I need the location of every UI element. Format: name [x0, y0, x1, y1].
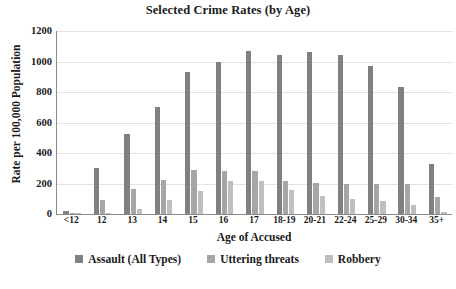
- bar: [429, 164, 434, 214]
- bar: [307, 52, 312, 214]
- x-tick-label: 12: [86, 215, 116, 225]
- y-tick-label: 800: [6, 87, 52, 97]
- chart-title: Selected Crime Rates (by Age): [0, 3, 456, 18]
- bar: [155, 107, 160, 215]
- legend-item[interactable]: Robbery: [325, 253, 381, 265]
- bar-groups: [57, 31, 453, 214]
- bar-group: [87, 31, 117, 214]
- x-tick-label: 22-24: [330, 215, 360, 225]
- bar: [380, 201, 385, 214]
- bar: [246, 51, 251, 214]
- bar: [124, 134, 129, 214]
- x-tick-label: <12: [56, 215, 86, 225]
- bar: [398, 87, 403, 214]
- bar-group: [301, 31, 331, 214]
- x-tick-label: 14: [147, 215, 177, 225]
- bar: [185, 72, 190, 214]
- x-tick-label: 15: [178, 215, 208, 225]
- y-tick-label: 1000: [6, 57, 52, 67]
- legend-label: Assault (All Types): [88, 253, 181, 265]
- bar: [374, 184, 379, 214]
- bar: [216, 62, 221, 215]
- bar-group: [179, 31, 209, 214]
- x-tick-label: 25-29: [361, 215, 391, 225]
- bar: [277, 55, 282, 214]
- bar: [161, 180, 166, 214]
- legend-label: Uttering threats: [220, 253, 299, 265]
- bar: [405, 184, 410, 215]
- bar: [228, 181, 233, 214]
- bar: [100, 200, 105, 214]
- bar: [222, 171, 227, 214]
- x-tick-label: 16: [208, 215, 238, 225]
- x-tick-label: 17: [239, 215, 269, 225]
- bar: [94, 168, 99, 214]
- legend-swatch-icon: [207, 255, 215, 263]
- legend-swatch-icon: [325, 255, 333, 263]
- bar: [167, 200, 172, 214]
- bar: [131, 189, 136, 214]
- bar-group: [392, 31, 422, 214]
- bar: [289, 190, 294, 214]
- bar: [368, 66, 373, 214]
- bar: [344, 184, 349, 214]
- bar: [252, 171, 257, 214]
- y-tick-label: 0: [6, 209, 52, 219]
- x-tick-label: 30-34: [391, 215, 421, 225]
- bar-group: [57, 31, 87, 214]
- x-tick-label: 18-19: [269, 215, 299, 225]
- bar-group: [148, 31, 178, 214]
- y-tick-label: 400: [6, 148, 52, 158]
- bar-group: [270, 31, 300, 214]
- bar: [198, 191, 203, 214]
- bar-group: [209, 31, 239, 214]
- y-tick-label: 200: [6, 179, 52, 189]
- bar: [313, 183, 318, 214]
- chart-legend: Assault (All Types)Uttering threatsRobbe…: [0, 253, 456, 265]
- bar: [350, 199, 355, 214]
- legend-item[interactable]: Assault (All Types): [75, 253, 181, 265]
- bar: [320, 196, 325, 214]
- bar-group: [331, 31, 361, 214]
- bar: [259, 181, 264, 214]
- y-tick-label: 1200: [6, 26, 52, 36]
- x-axis-title: Age of Accused: [56, 231, 452, 243]
- legend-swatch-icon: [75, 255, 83, 263]
- y-axis-tick-labels: 020040060080010001200: [0, 0, 52, 289]
- crime-rates-bar-chart: Selected Crime Rates (by Age) Rate per 1…: [0, 0, 456, 289]
- bar-group: [240, 31, 270, 214]
- bar: [191, 170, 196, 214]
- bar: [338, 55, 343, 214]
- bar-group: [423, 31, 453, 214]
- bar: [283, 181, 288, 214]
- x-tick-label: 20-21: [300, 215, 330, 225]
- bar-group: [118, 31, 148, 214]
- x-axis-tick-labels: <1212131415161718-1920-2122-2425-2930-34…: [56, 215, 452, 229]
- y-tick-label: 600: [6, 118, 52, 128]
- x-tick-label: 13: [117, 215, 147, 225]
- plot-area: [56, 31, 452, 214]
- legend-label: Robbery: [338, 253, 381, 265]
- x-tick-label: 35+: [422, 215, 452, 225]
- legend-item[interactable]: Uttering threats: [207, 253, 299, 265]
- bar-group: [362, 31, 392, 214]
- bar: [435, 197, 440, 214]
